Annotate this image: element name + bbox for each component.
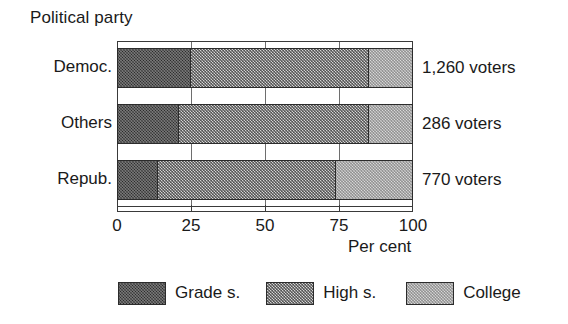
axis-tick-label: 50	[256, 216, 275, 236]
axis-tick	[412, 205, 413, 212]
bar-segment	[336, 160, 413, 200]
bar-row	[117, 48, 413, 88]
bar-segment	[369, 104, 413, 144]
legend-label: High s.	[323, 283, 376, 303]
axis-tick	[265, 205, 266, 212]
chart-root: Political party Democ.OthersRepub. 1,260…	[0, 0, 568, 324]
bar-segment	[117, 104, 179, 144]
axis-tick-label: 75	[330, 216, 349, 236]
voter-count-label: 1,260 voters	[422, 58, 516, 78]
legend-item[interactable]: Grade s.	[118, 282, 240, 305]
voter-count-label: 770 voters	[422, 170, 501, 190]
bar-segment	[117, 160, 158, 200]
axis-tick-label: 25	[182, 216, 201, 236]
bar-segment	[369, 48, 413, 88]
category-label: Democ.	[0, 57, 112, 77]
bar-segment	[179, 104, 368, 144]
legend-swatch-icon	[406, 282, 454, 305]
bar-segment	[158, 160, 336, 200]
bar-row	[117, 160, 413, 200]
axis-tick-label: 0	[112, 216, 121, 236]
legend-item[interactable]: College	[406, 282, 521, 305]
chart-legend: Grade s.High s.College	[118, 276, 521, 310]
axis-tick	[191, 205, 192, 212]
category-label: Repub.	[0, 169, 112, 189]
x-axis-title: Per cent	[348, 237, 411, 257]
bar-segment	[117, 48, 191, 88]
axis-tick-label: 100	[399, 216, 427, 236]
legend-label: Grade s.	[175, 283, 240, 303]
voter-count-label: 286 voters	[422, 114, 501, 134]
legend-swatch-icon	[266, 282, 314, 305]
legend-item[interactable]: High s.	[266, 282, 376, 305]
axis-tick	[117, 205, 118, 212]
category-axis-labels: Democ.OthersRepub.	[0, 0, 112, 324]
axis-tick	[339, 205, 340, 212]
legend-label: College	[463, 283, 521, 303]
bar-segment	[191, 48, 369, 88]
legend-swatch-icon	[118, 282, 166, 305]
category-label: Others	[0, 113, 112, 133]
bar-row	[117, 104, 413, 144]
